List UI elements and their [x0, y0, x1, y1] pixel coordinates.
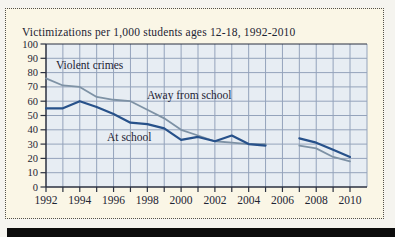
x-tick-label: 2000	[170, 194, 193, 206]
x-tick-label: 2006	[271, 194, 294, 206]
y-tick-label: 60	[28, 96, 39, 107]
x-tick-label: 2010	[339, 194, 362, 206]
x-tick-label: 1998	[136, 194, 159, 206]
y-tick-label: 20	[28, 153, 39, 164]
y-tick-label: 0	[33, 182, 38, 193]
series-label-at-school: At school	[107, 131, 151, 143]
annotation-violent-crimes: Violent crimes	[56, 59, 123, 71]
page-bottom-black-bar	[7, 228, 395, 237]
chart-title: Victimizations per 1,000 students ages 1…	[22, 26, 296, 38]
scanned-page: 0102030405060708090100199219941996199820…	[0, 0, 395, 237]
y-tick-label: 80	[28, 67, 39, 78]
series-label-away-from-school: Away from school	[147, 89, 232, 101]
y-tick-label: 90	[28, 53, 39, 64]
x-tick-label: 2002	[203, 194, 226, 206]
x-tick-label: 1996	[102, 194, 125, 206]
y-tick-label: 100	[22, 39, 38, 50]
x-tick-label: 2004	[237, 194, 260, 206]
x-tick-label: 1992	[35, 194, 58, 206]
y-tick-label: 50	[28, 110, 39, 121]
y-tick-label: 40	[28, 124, 39, 135]
x-tick-label: 2008	[305, 194, 328, 206]
y-tick-label: 10	[28, 167, 39, 178]
y-tick-label: 30	[28, 139, 39, 150]
y-tick-label: 70	[28, 81, 39, 92]
x-tick-label: 1994	[68, 194, 91, 206]
